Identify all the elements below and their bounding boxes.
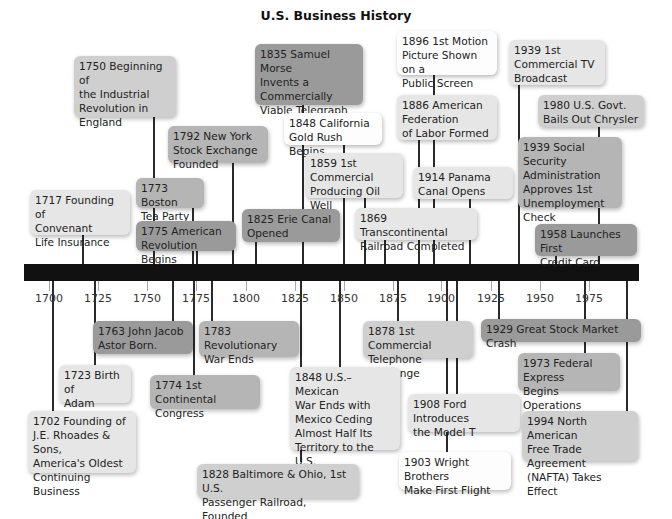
tick-label-1775: 1775 xyxy=(176,292,216,305)
event-box-1825: 1825 Erie Canal Opened xyxy=(242,209,340,242)
event-box-1702: 1702 Founding of J.E. Rhoades & Sons, Am… xyxy=(28,411,136,473)
event-box-1773: 1773 Boston Tea Party xyxy=(136,178,204,208)
tick-label-1900: 1900 xyxy=(421,292,461,305)
event-box-1929: 1929 Great Stock Market Crash xyxy=(481,319,641,342)
event-box-1973: 1973 Federal Express Begins Operations xyxy=(518,353,620,391)
event-box-1886: 1886 American Federation of Labor Formed xyxy=(397,95,497,140)
tick-1925 xyxy=(491,281,492,291)
event-box-1878: 1878 1st Commercial Telephone Exchange xyxy=(363,321,473,358)
diagram-title: U.S. Business History xyxy=(0,8,672,23)
event-box-1908: 1908 Ford Introduces the Model T xyxy=(408,394,520,432)
event-box-1848-war: 1848 U.S.–Mexican War Ends with Mexico C… xyxy=(290,367,400,450)
event-box-1939-ss: 1939 Social Security Administration Appr… xyxy=(518,137,622,208)
tick-label-1825: 1825 xyxy=(275,292,315,305)
connector-1903b xyxy=(446,358,448,394)
tick-1875 xyxy=(393,281,394,291)
event-box-1783: 1783 Revolutionary War Ends xyxy=(199,321,299,357)
tick-label-1975: 1975 xyxy=(569,292,609,305)
tick-label-1725: 1725 xyxy=(78,292,118,305)
event-box-1717: 1717 Founding of Convenant Life Insuranc… xyxy=(30,190,130,235)
event-box-1750: 1750 Beginning of the Industrial Revolut… xyxy=(74,56,176,117)
event-box-1994: 1994 North American Free Trade Agreement… xyxy=(522,411,638,461)
tick-label-1950: 1950 xyxy=(520,292,560,305)
event-box-1914: 1914 Panama Canal Opens xyxy=(413,167,513,199)
event-box-1980: 1980 U.S. Govt. Bails Out Chrysler xyxy=(538,95,644,127)
connector-1908b xyxy=(456,358,458,394)
tick-1800 xyxy=(246,281,247,291)
event-box-1896: 1896 1st Motion Picture Shown on a Publi… xyxy=(397,31,497,75)
connector-1859b xyxy=(343,197,345,264)
tick-1850 xyxy=(344,281,345,291)
event-box-1763: 1763 John Jacob Astor Born. xyxy=(93,321,193,354)
tick-1775 xyxy=(196,281,197,291)
event-box-1848-gold: 1848 California Gold Rush Begins xyxy=(284,113,382,145)
connector-1775 xyxy=(196,250,198,264)
event-box-1792: 1792 New York Stock Exchange Founded xyxy=(168,126,268,163)
event-box-1774: 1774 1st Continental Congress xyxy=(150,375,260,409)
event-box-1869: 1869 Transcontinental Railroad Completed xyxy=(355,208,477,240)
event-box-1939: 1939 1st Commercial TV Broadcast xyxy=(509,40,605,85)
tick-1950 xyxy=(540,281,541,291)
connector-1994 xyxy=(626,281,628,411)
connector-1825 xyxy=(255,242,257,264)
tick-label-1800: 1800 xyxy=(226,292,266,305)
tick-1700 xyxy=(49,281,50,291)
tick-1900 xyxy=(441,281,442,291)
event-box-1835: 1835 Samuel Morse Invents a Commercially… xyxy=(255,44,363,105)
tick-1975 xyxy=(589,281,590,291)
tick-label-1925: 1925 xyxy=(471,292,511,305)
tick-1725 xyxy=(98,281,99,291)
tick-label-1850: 1850 xyxy=(324,292,364,305)
tick-label-1750: 1750 xyxy=(127,292,167,305)
event-box-1723: 1723 Birth of Adam Smith xyxy=(59,365,131,403)
connector-1763 xyxy=(172,281,174,321)
event-box-1958: 1958 Launches First Credit Card xyxy=(535,224,637,256)
connector-1859a xyxy=(343,145,345,153)
tick-label-1700: 1700 xyxy=(29,292,69,305)
connector-1869a xyxy=(364,198,366,208)
connector-1848 xyxy=(302,145,304,264)
tick-1750 xyxy=(147,281,148,291)
event-box-1859: 1859 1st Commercial Producing Oil Well xyxy=(305,153,403,198)
tick-label-1875: 1875 xyxy=(373,292,413,305)
event-box-1775: 1775 American Revolution Begins xyxy=(136,221,236,251)
event-box-1828: 1828 Baltimore & Ohio, 1st U.S. Passenge… xyxy=(197,464,359,498)
tick-1825 xyxy=(295,281,296,291)
event-box-1903: 1903 Wright Brothers Make First Flight xyxy=(399,452,511,490)
